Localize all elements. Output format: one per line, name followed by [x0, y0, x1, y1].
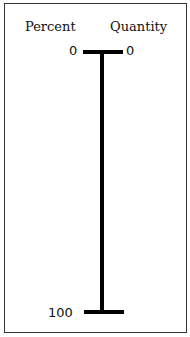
quantity-top-label: 0 — [126, 44, 134, 58]
bottom-crossbar — [84, 310, 124, 314]
quantity-header: Quantity — [110, 19, 167, 34]
percent-bottom-label: 100 — [48, 306, 73, 320]
percent-header: Percent — [25, 19, 76, 34]
percent-top-label: 0 — [69, 44, 77, 58]
vertical-scale-line — [100, 50, 104, 314]
